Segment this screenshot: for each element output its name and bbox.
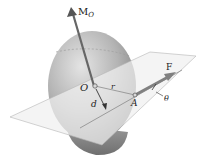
label-f: F: [166, 62, 172, 72]
point-o-marker: [93, 84, 97, 88]
point-a-marker: [133, 93, 137, 97]
label-theta: θ: [164, 94, 169, 103]
moment-diagram: MO O r d A F θ: [0, 0, 202, 161]
label-origin: O: [80, 82, 88, 93]
label-moment: MO: [78, 6, 94, 19]
angle-theta-leader: [156, 92, 163, 96]
label-d: d: [91, 99, 97, 109]
moment-arrow-head: [67, 7, 77, 17]
label-a: A: [130, 98, 138, 108]
